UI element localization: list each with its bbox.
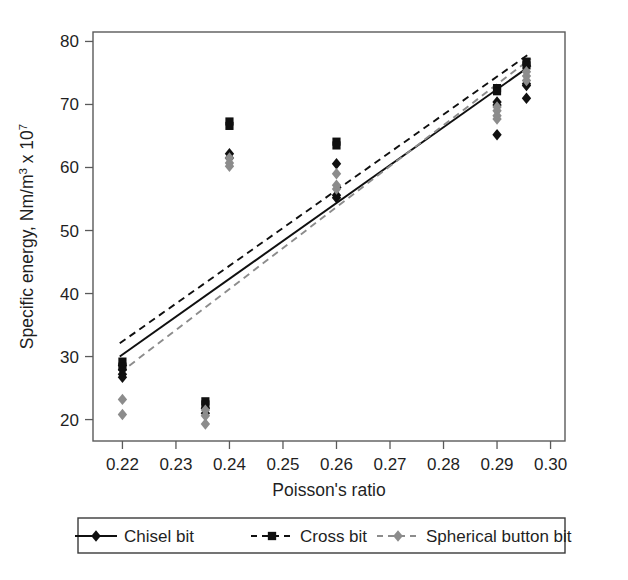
data-point-chisel-bit (522, 92, 531, 103)
data-point-cross-bit (332, 141, 340, 149)
legend-marker (91, 530, 101, 542)
x-tick-label: 0.24 (213, 455, 246, 474)
x-axis-tick-labels: 0.220.230.240.250.260.270.280.290.30 (106, 455, 567, 474)
chart-figure: 20304050607080 0.220.230.240.250.260.270… (0, 0, 628, 580)
x-tick-label: 0.23 (159, 455, 192, 474)
data-point-cross-bit (493, 87, 501, 95)
x-axis-title: Poisson's ratio (272, 480, 385, 500)
trend-line-spherical-button-bit (120, 58, 531, 372)
data-point-spherical-button-bit (118, 394, 127, 405)
trend-lines (120, 53, 531, 373)
legend-marker (268, 532, 276, 540)
y-tick-label: 20 (60, 411, 79, 430)
data-point-spherical-button-bit (201, 418, 210, 429)
y-tick-label: 40 (60, 285, 79, 304)
legend-item-cross-bit[interactable]: Cross bit (251, 527, 367, 546)
y-tick-label: 80 (60, 32, 79, 51)
x-tick-label: 0.27 (373, 455, 406, 474)
legend-label: Cross bit (300, 527, 367, 546)
legend-item-chisel-bit[interactable]: Chisel bit (75, 527, 194, 546)
y-axis-ticks (85, 41, 93, 419)
legend-label: Chisel bit (124, 527, 194, 546)
legend-items: Chisel bitCross bitSpherical button bit (75, 527, 572, 546)
x-tick-label: 0.22 (106, 455, 139, 474)
scatter-plot: 20304050607080 0.220.230.240.250.260.270… (0, 0, 628, 580)
legend-label: Spherical button bit (426, 527, 572, 546)
x-tick-label: 0.30 (534, 455, 567, 474)
data-points (118, 58, 531, 430)
y-tick-label: 50 (60, 222, 79, 241)
y-axis-tick-labels: 20304050607080 (60, 32, 79, 429)
data-point-chisel-bit (332, 158, 341, 169)
trend-line-chisel-bit (120, 65, 531, 356)
x-tick-label: 0.26 (320, 455, 353, 474)
x-tick-label: 0.29 (480, 455, 513, 474)
legend-item-spherical-button-bit[interactable]: Spherical button bit (377, 527, 572, 546)
x-tick-label: 0.28 (427, 455, 460, 474)
y-axis-title: Specific energy, Nm/m3 x 107 (17, 124, 37, 350)
trend-line-cross-bit (120, 53, 531, 344)
data-point-spherical-button-bit (118, 409, 127, 420)
y-tick-label: 70 (60, 95, 79, 114)
y-tick-label: 60 (60, 158, 79, 177)
data-point-chisel-bit (492, 129, 501, 140)
data-point-spherical-button-bit (332, 168, 341, 179)
y-tick-label: 30 (60, 348, 79, 367)
x-axis-ticks (122, 441, 550, 449)
x-tick-label: 0.25 (266, 455, 299, 474)
data-point-cross-bit (118, 363, 126, 371)
data-point-cross-bit (225, 122, 233, 130)
legend-marker (393, 530, 403, 542)
y-axis-title-text: Specific energy, Nm/m3 x 107 (17, 124, 37, 350)
